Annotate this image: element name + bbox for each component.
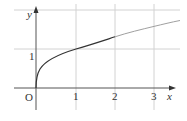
- axes: [14, 10, 172, 110]
- x-tick-1: 1: [73, 90, 79, 102]
- y-axis-label: y: [26, 8, 32, 20]
- sqrt-chart: O 1 2 3 x 1 y: [0, 0, 187, 121]
- x-tick-3: 3: [151, 90, 157, 102]
- curve-sqrt-light: [115, 21, 180, 37]
- x-axis-label: x: [166, 90, 172, 102]
- origin-label: O: [25, 91, 33, 103]
- x-tick-2: 2: [112, 90, 118, 102]
- y-tick-1: 1: [29, 50, 35, 62]
